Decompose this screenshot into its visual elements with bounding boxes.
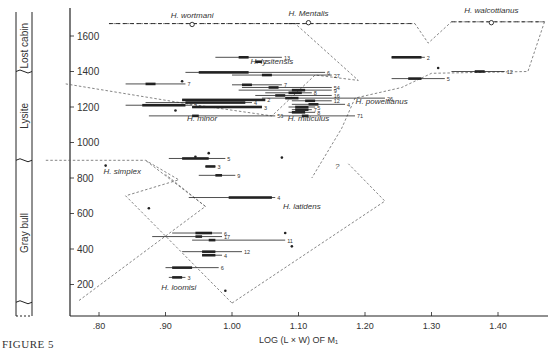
sample-count-label: 4 bbox=[347, 102, 350, 108]
sample-mean-bar bbox=[229, 196, 272, 199]
sample-mean-bar bbox=[142, 104, 185, 107]
sample-count-label: 5 bbox=[227, 156, 230, 162]
y-tick-label: 1400 bbox=[77, 66, 100, 77]
sample-count-label: 4 bbox=[277, 195, 280, 201]
sample-mean-bar bbox=[408, 77, 421, 80]
x-tick-label: 1.00 bbox=[223, 321, 241, 331]
type-specimen-marker bbox=[489, 20, 493, 24]
species-label: H. powellianus bbox=[356, 97, 408, 106]
sample-mean-bar bbox=[475, 70, 485, 73]
x-tick-label: .90 bbox=[159, 321, 172, 331]
single-specimen-point bbox=[224, 289, 227, 292]
x-tick-label: 1.30 bbox=[423, 321, 441, 331]
x-tick-label: .80 bbox=[93, 321, 106, 331]
formation-boundary-wavy bbox=[16, 301, 32, 304]
uncertain-annotation: ? bbox=[335, 162, 340, 171]
y-tick-label: 400 bbox=[77, 244, 94, 255]
sample-count-label: 4 bbox=[224, 253, 227, 259]
x-tick-label: 1.20 bbox=[356, 321, 374, 331]
sample-mean-bar bbox=[195, 235, 202, 238]
sample-mean-bar bbox=[195, 232, 212, 235]
lineage-envelope bbox=[232, 164, 385, 303]
sample-mean-bar bbox=[392, 56, 422, 59]
sample-mean-bar bbox=[202, 254, 215, 257]
sample-mean-bar bbox=[285, 97, 298, 100]
sample-mean-bar bbox=[289, 92, 302, 95]
sample-mean-bar bbox=[305, 99, 315, 102]
sample-count-label: 2 bbox=[267, 97, 270, 103]
sample-count-label: 3 bbox=[264, 105, 267, 111]
sample-mean-bar bbox=[202, 250, 215, 253]
species-label: H. simplex bbox=[104, 167, 142, 176]
sample-mean-bar bbox=[242, 84, 252, 87]
species-label: H. minor bbox=[187, 114, 218, 123]
sample-count-label: 27 bbox=[334, 73, 340, 79]
sample-mean-bar bbox=[215, 174, 222, 177]
species-label: H. wortmani bbox=[171, 11, 214, 20]
sample-mean-bar bbox=[292, 89, 305, 92]
sample-mean-bar bbox=[295, 106, 308, 109]
sample-mean-bar bbox=[192, 106, 262, 109]
sample-mean-bar bbox=[275, 94, 285, 97]
lineage-envelope bbox=[46, 160, 232, 303]
sample-count-label: 12 bbox=[507, 69, 513, 75]
lineage-envelope bbox=[289, 22, 545, 178]
sample-count-label: 12 bbox=[244, 249, 250, 255]
single-specimen-point bbox=[194, 155, 197, 158]
formation-boundary-wavy bbox=[16, 70, 32, 73]
species-label: H. Mentalis bbox=[288, 9, 328, 18]
y-tick-label: 200 bbox=[77, 279, 94, 290]
single-specimen-point bbox=[291, 245, 294, 248]
sample-mean-bar bbox=[295, 108, 308, 111]
species-label: H. miticulus bbox=[288, 114, 329, 123]
x-tick-label: 1.10 bbox=[290, 321, 308, 331]
single-specimen-point bbox=[148, 207, 151, 210]
y-tick-label: 1600 bbox=[77, 31, 100, 42]
sample-mean-bar bbox=[205, 165, 215, 168]
species-label: H. loomisi bbox=[161, 283, 196, 292]
single-specimen-point bbox=[174, 109, 177, 112]
sample-mean-bar bbox=[209, 239, 216, 242]
sample-count-label: 9 bbox=[237, 173, 240, 179]
single-specimen-point bbox=[284, 232, 287, 235]
single-specimen-point bbox=[207, 152, 210, 155]
sample-count-label: 2 bbox=[427, 55, 430, 61]
sample-count-label: 3 bbox=[187, 275, 190, 281]
x-tick-label: 1.40 bbox=[489, 321, 507, 331]
sample-count-label: 12 bbox=[334, 98, 340, 104]
sample-count-label: 11 bbox=[287, 238, 293, 244]
sample-mean-bar bbox=[182, 99, 265, 102]
sample-mean-bar bbox=[172, 276, 182, 279]
sample-count-label: 7 bbox=[187, 81, 190, 87]
sample-count-label: 56 bbox=[277, 113, 283, 119]
type-specimen-marker bbox=[190, 22, 194, 26]
y-tick-label: 1000 bbox=[77, 137, 100, 148]
single-specimen-point bbox=[437, 67, 440, 70]
y-tick-label: 1200 bbox=[77, 102, 100, 113]
formation-label: Gray bull bbox=[19, 213, 30, 253]
y-tick-label: 600 bbox=[77, 208, 94, 219]
sample-mean-bar bbox=[239, 56, 249, 59]
formation-label: Lysite bbox=[19, 103, 30, 129]
sample-mean-bar bbox=[172, 266, 192, 269]
species-label: H. walcottianus bbox=[464, 6, 518, 15]
x-axis-label: LOG (L × W) OF M₁ bbox=[259, 335, 338, 345]
sample-mean-bar bbox=[146, 83, 156, 86]
lineage-envelope bbox=[79, 160, 205, 300]
sample-count-label: 5 bbox=[447, 76, 450, 82]
chart-canvas: .80.901.001.101.201.301.4020040060080010… bbox=[0, 0, 557, 358]
sample-mean-bar bbox=[262, 74, 272, 77]
sample-count-label: 17 bbox=[224, 234, 230, 240]
single-specimen-point bbox=[281, 156, 284, 159]
sample-mean-bar bbox=[269, 86, 279, 89]
single-specimen-point bbox=[181, 80, 184, 83]
y-tick-label: 800 bbox=[77, 173, 94, 184]
figure-label: FIGURE 5 bbox=[2, 338, 54, 350]
sample-mean-bar bbox=[199, 71, 249, 74]
sample-count-label: 6 bbox=[221, 265, 224, 271]
formation-label: Lost cabin bbox=[19, 23, 30, 69]
lineage-envelope bbox=[166, 174, 206, 206]
species-label: H. lysitensis bbox=[251, 57, 294, 66]
sample-count-label: 71 bbox=[357, 113, 363, 119]
sample-count-label: 3 bbox=[217, 164, 220, 170]
